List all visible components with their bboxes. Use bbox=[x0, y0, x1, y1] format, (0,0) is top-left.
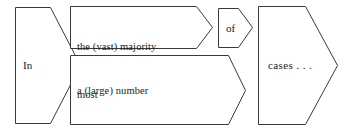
majority-line-1: the (vast) majority bbox=[77, 40, 156, 55]
diagram-container: In the (vast) majority a (large) number … bbox=[0, 0, 351, 132]
in-arrow-label: In bbox=[23, 58, 32, 73]
of-arrow-label: of bbox=[226, 21, 235, 36]
of-arrow-shape bbox=[219, 9, 253, 48]
quantity-line-1: most bbox=[77, 88, 186, 103]
quantity-arrow-text: most some a few (+ other 'quantity' word… bbox=[77, 59, 186, 132]
cases-arrow-label: cases . . . bbox=[268, 58, 312, 73]
